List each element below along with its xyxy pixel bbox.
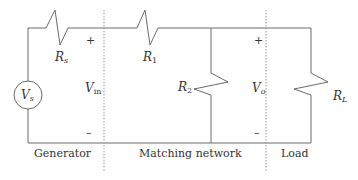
rs-label: Rs xyxy=(54,50,68,65)
rl-label: RL xyxy=(332,89,347,104)
vo-label: Vo xyxy=(252,81,266,96)
section-load-label: Load xyxy=(281,147,309,160)
left-upper-wire xyxy=(28,28,46,81)
vo-minus: – xyxy=(254,126,260,139)
vo-plus: + xyxy=(254,34,263,47)
vin-label: Vin xyxy=(85,81,101,96)
circuit-diagram: Vs Rs R1 R2 RL + Vin – + Vo – Generator … xyxy=(0,0,358,180)
resistor-r2-zigzag xyxy=(194,28,228,143)
resistor-rl-zigzag xyxy=(294,28,328,143)
vin-plus: + xyxy=(86,34,95,47)
section-generator-label: Generator xyxy=(34,147,92,160)
section-matching-label: Matching network xyxy=(139,147,242,160)
r2-label: R2 xyxy=(177,80,192,95)
vin-minus: – xyxy=(86,126,92,139)
bottom-wire xyxy=(28,109,311,143)
resistor-r1-zigzag xyxy=(137,10,311,45)
r1-label: R1 xyxy=(142,50,157,65)
wires xyxy=(14,10,328,143)
source-label: Vs xyxy=(21,88,34,103)
